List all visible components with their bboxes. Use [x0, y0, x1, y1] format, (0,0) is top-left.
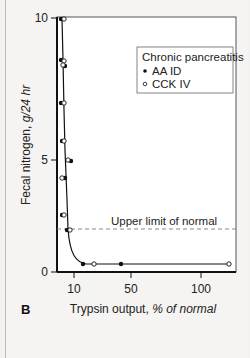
x-tick-10: 10: [67, 282, 81, 296]
filled-circle-icon: [143, 69, 147, 73]
y-ticks: 10 5 0: [35, 11, 57, 279]
upper-limit-label: Upper limit of normal: [111, 215, 217, 227]
panel-label: B: [21, 302, 30, 317]
y-tick-5: 5: [41, 153, 48, 167]
x-ticks: 10 50 100: [67, 272, 211, 296]
legend: Chronic pancreatitis AA ID CCK IV: [137, 47, 244, 93]
x-tick-100: 100: [191, 282, 211, 296]
legend-title: Chronic pancreatitis: [142, 51, 244, 63]
legend-cck-iv: CCK IV: [152, 78, 191, 90]
y-tick-10: 10: [35, 11, 49, 25]
y-tick-0: 0: [41, 265, 48, 279]
chart: 10 5 0 10 50 100 Trypsin output, % of no…: [0, 0, 250, 358]
open-circle-icon: [143, 82, 147, 86]
y-axis-title: Fecal nitrogen, g/24 hr: [19, 84, 33, 205]
x-axis-title: Trypsin output, % of normal: [70, 302, 217, 316]
x-tick-50: 50: [124, 282, 138, 296]
legend-aa-id: AA ID: [152, 65, 181, 77]
